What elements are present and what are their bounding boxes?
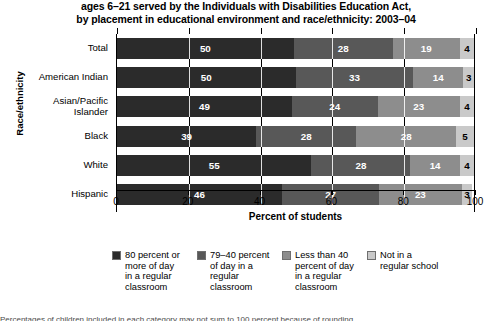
legend-swatch-icon: [197, 251, 206, 260]
gridline-gap-tick: [261, 88, 262, 96]
bar-segment: 33: [296, 67, 414, 88]
bar-value-label: 28: [355, 160, 366, 171]
legend-item[interactable]: Less than 40 percent of day in a regular…: [282, 250, 367, 292]
legend-item[interactable]: 80 percent or more of day in a regular c…: [112, 250, 197, 292]
gridline-tick-top: [189, 28, 190, 34]
legend-swatch-icon: [367, 251, 376, 260]
bar-value-label: 5: [462, 131, 467, 142]
bar-segment: 39: [117, 126, 256, 147]
bar-row: 3928285: [117, 126, 474, 147]
bar-segment: 28: [311, 155, 410, 176]
x-axis-tick: [188, 190, 189, 195]
x-axis-tick: [116, 190, 117, 195]
legend-label: Not in a regular school: [380, 250, 438, 271]
bar-segment: 23: [378, 96, 460, 117]
bar-segment: 28: [256, 126, 356, 147]
footnote-clipped: Percentages of children included in each…: [0, 316, 492, 321]
page-title: ages 6–21 served by the Individuals with…: [0, 0, 492, 25]
x-axis-tick-label: 80: [383, 196, 423, 207]
bar-segment: 3: [463, 67, 474, 88]
bar-value-label: 55: [209, 160, 220, 171]
gridline-gap-tick: [189, 176, 190, 184]
category-label: White: [0, 160, 108, 171]
category-label: American Indian: [0, 72, 108, 83]
plot-area: 5028194503314349242343928285552814446272…: [116, 34, 475, 212]
x-axis-tick: [475, 190, 476, 195]
bar-segment: 24: [292, 96, 378, 117]
bar-value-label: 33: [349, 72, 360, 83]
category-label: Total: [0, 43, 108, 54]
gridline-gap-tick: [404, 59, 405, 67]
legend-swatch-icon: [282, 251, 291, 260]
footnote-text: Percentages of children included in each…: [0, 316, 492, 321]
gridline-gap-tick: [261, 59, 262, 67]
bar-segment: 19: [393, 38, 460, 59]
bar-segment: 4: [460, 96, 474, 117]
x-axis-tick: [331, 190, 332, 195]
bar-segment: 5: [456, 126, 474, 147]
bar-segment: 55: [117, 155, 311, 176]
bar-value-label: 28: [338, 43, 349, 54]
legend-swatch-icon: [112, 251, 121, 260]
bar-value-label: 14: [430, 160, 441, 171]
x-axis-tick-label: 100: [455, 196, 492, 207]
bar-segment: 14: [413, 67, 463, 88]
x-axis-tick: [403, 190, 404, 195]
bar-value-label: 4: [464, 43, 469, 54]
bar-value-label: 23: [413, 101, 424, 112]
chart-page: ages 6–21 served by the Individuals with…: [0, 0, 492, 321]
gridline-gap-tick: [404, 176, 405, 184]
bar-segment: 14: [410, 155, 459, 176]
gridline-gap-tick: [189, 117, 190, 125]
gridline-gap-tick: [404, 147, 405, 155]
legend-label: Less than 40 percent of day in a regular…: [295, 250, 354, 292]
bar-segment: 28: [356, 126, 456, 147]
x-axis-tick-label: 0: [96, 196, 136, 207]
legend-item[interactable]: 79–40 percent of day in a regular classr…: [197, 250, 282, 292]
x-axis-tick-label: 40: [240, 196, 280, 207]
category-label: Asian/Pacific Islander: [0, 96, 108, 117]
legend-label: 80 percent or more of day in a regular c…: [125, 250, 180, 292]
bar-value-label: 50: [201, 72, 212, 83]
gridline-gap-tick: [261, 117, 262, 125]
x-axis-title: Percent of students: [116, 211, 475, 222]
title-line-2: by placement in educational environment …: [0, 13, 492, 26]
bar-segment: 50: [117, 67, 296, 88]
gridline-tick-top: [261, 28, 262, 34]
gridline-gap-tick: [189, 147, 190, 155]
bar-value-label: 4: [464, 160, 469, 171]
gridline-gap-tick: [332, 59, 333, 67]
bar-segment: 50: [117, 38, 294, 59]
x-axis-tick-label: 20: [168, 196, 208, 207]
bar-segment: 4: [460, 38, 474, 59]
gridline-gap-tick: [332, 117, 333, 125]
bar-row: 5528144: [117, 155, 474, 176]
bar-value-label: 50: [200, 43, 211, 54]
x-axis-tick: [260, 190, 261, 195]
bar-row: 5028194: [117, 38, 474, 59]
legend-label: 79–40 percent of day in a regular classr…: [210, 250, 269, 292]
legend-item[interactable]: Not in a regular school: [367, 250, 452, 292]
category-label: Black: [0, 131, 108, 142]
bar-value-label: 19: [421, 43, 432, 54]
bar-row: 5033143: [117, 67, 474, 88]
gridline-gap-tick: [404, 117, 405, 125]
gridline-gap-tick: [189, 59, 190, 67]
legend: 80 percent or more of day in a regular c…: [112, 250, 482, 292]
category-label: Hispanic: [0, 189, 108, 200]
bar-segment: 49: [117, 96, 292, 117]
x-axis-line: [116, 190, 475, 191]
gridline-tick-top: [332, 28, 333, 34]
bar-value-label: 3: [466, 72, 471, 83]
gridline-gap-tick: [189, 88, 190, 96]
bar-segment: 28: [294, 38, 393, 59]
bar-value-label: 14: [433, 72, 444, 83]
bar-value-label: 49: [199, 101, 210, 112]
bar-value-label: 39: [181, 131, 192, 142]
title-line-1: ages 6–21 served by the Individuals with…: [0, 0, 492, 13]
bar-segment: 4: [460, 155, 474, 176]
x-axis-tick-label: 60: [311, 196, 351, 207]
gridline-tick-top: [404, 28, 405, 34]
gridline-gap-tick: [261, 176, 262, 184]
gridline-gap-tick: [332, 147, 333, 155]
